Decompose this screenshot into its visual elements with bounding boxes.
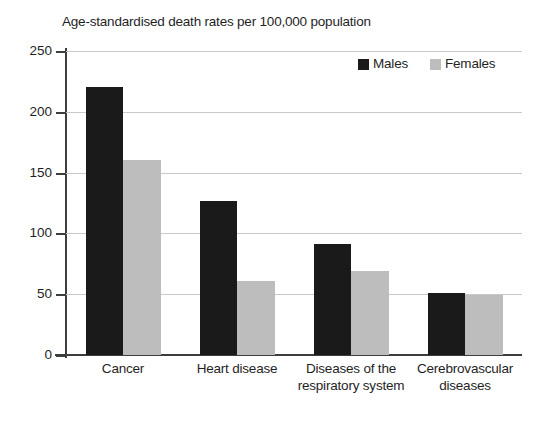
y-axis-tick-mark bbox=[56, 173, 66, 175]
bar-chart: Age-standardised death rates per 100,000… bbox=[0, 0, 552, 443]
y-axis-tick-mark bbox=[56, 294, 66, 296]
gridline bbox=[66, 112, 522, 113]
bar-females-2 bbox=[351, 271, 389, 355]
y-axis: 050100150200250 bbox=[0, 0, 52, 443]
y-axis-tick-label: 50 bbox=[6, 287, 52, 301]
gridline bbox=[66, 51, 522, 52]
x-axis-category-label: Cerebrovascular diseases bbox=[408, 360, 522, 394]
x-axis-category-label: Heart disease bbox=[180, 360, 294, 377]
y-axis-tick-label: 250 bbox=[6, 44, 52, 58]
plot-area bbox=[66, 51, 522, 355]
y-axis-tick-mark bbox=[56, 355, 66, 357]
y-axis-tick-mark bbox=[56, 51, 66, 53]
bar-females-1 bbox=[237, 281, 275, 355]
y-axis-tick-label: 100 bbox=[6, 226, 52, 240]
bar-males-3 bbox=[428, 293, 466, 355]
y-axis-tick-mark bbox=[56, 233, 66, 235]
y-axis-tick-label: 0 bbox=[6, 348, 52, 362]
bar-females-3 bbox=[465, 295, 503, 355]
bar-males-2 bbox=[314, 244, 352, 355]
x-axis-category-label: Diseases of the respiratory system bbox=[294, 360, 408, 394]
x-axis-categories: CancerHeart diseaseDiseases of the respi… bbox=[66, 360, 536, 430]
chart-title: Age-standardised death rates per 100,000… bbox=[62, 14, 371, 30]
bar-females-0 bbox=[123, 160, 161, 355]
y-axis-tick-mark bbox=[56, 112, 66, 114]
x-axis-category-label: Cancer bbox=[66, 360, 180, 377]
y-axis-tick-label: 200 bbox=[6, 105, 52, 119]
bar-males-1 bbox=[200, 201, 238, 355]
bar-males-0 bbox=[86, 87, 124, 355]
y-axis-tick-label: 150 bbox=[6, 166, 52, 180]
